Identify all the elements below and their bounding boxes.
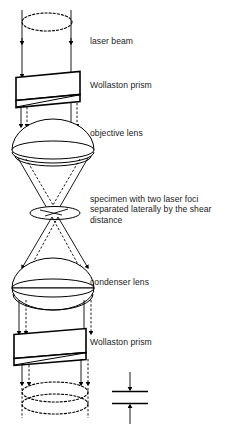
- top-wollaston-prism: [16, 72, 80, 108]
- label-specimen: specimen with two laser foci separated l…: [90, 194, 236, 225]
- bottom-dashed-ellipse-lower: [22, 394, 88, 414]
- bottom-dashed-ellipse-upper: [22, 382, 88, 402]
- prism-exit-rays: [22, 359, 88, 418]
- label-wollaston-prism-bottom: Wollaston prism: [90, 337, 152, 347]
- specimen-disk: [30, 207, 80, 220]
- laser-beam-rays: [22, 10, 71, 77]
- dic-optical-path-diagram: laser beam Wollaston prism objective len…: [0, 0, 240, 428]
- shear-distance-indicator: [112, 372, 148, 424]
- condenser-lens: [12, 258, 94, 310]
- label-condenser-lens: condenser lens: [90, 277, 149, 287]
- label-laser-beam: laser beam: [90, 36, 133, 46]
- objective-lens: [12, 119, 94, 166]
- bottom-wollaston-prism: [14, 329, 86, 366]
- label-objective-lens: objective lens: [90, 128, 143, 138]
- top-dashed-ellipse: [22, 13, 72, 31]
- label-wollaston-prism-top: Wollaston prism: [90, 80, 152, 90]
